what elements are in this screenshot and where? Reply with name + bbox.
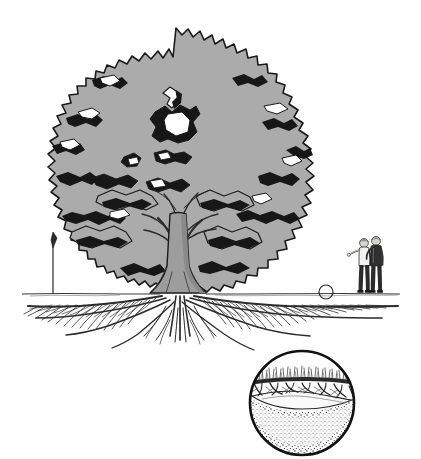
- illustration-canvas: [0, 0, 421, 459]
- tree-root-illustration: Tree with shallow spreading root system: [0, 0, 421, 459]
